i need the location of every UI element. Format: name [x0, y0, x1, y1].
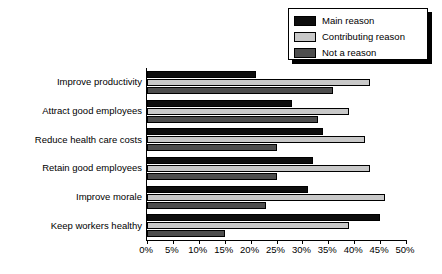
legend-swatch-not-a-reason	[294, 48, 316, 58]
x-tick-label: 45%	[370, 244, 389, 255]
bar	[147, 230, 225, 237]
legend-swatch-contributing-reason	[294, 32, 316, 42]
category-axis-labels: Improve productivityAttract good employe…	[0, 68, 142, 240]
x-tick-label: 50%	[395, 244, 414, 255]
bar	[147, 214, 380, 221]
legend-label: Main reason	[322, 16, 374, 26]
x-tick-label: 25%	[266, 244, 285, 255]
bar-group	[147, 97, 406, 126]
bar-chart: Main reason Contributing reason Not a re…	[0, 0, 442, 274]
x-tick-label: 30%	[292, 244, 311, 255]
bar	[147, 100, 292, 107]
x-tick-label: 40%	[344, 244, 363, 255]
category-label: Improve productivity	[2, 77, 142, 87]
x-tick-label: 15%	[214, 244, 233, 255]
bar	[147, 128, 323, 135]
bar	[147, 157, 313, 164]
legend-item: Contributing reason	[294, 29, 422, 44]
bar	[147, 144, 277, 151]
bar-group	[147, 68, 406, 97]
bar	[147, 202, 266, 209]
x-axis-labels: 0%5%10%15%20%25%30%35%40%45%50%	[146, 244, 405, 260]
bar	[147, 222, 349, 229]
x-tick-label: 35%	[318, 244, 337, 255]
bar	[147, 173, 277, 180]
x-tick-label: 5%	[165, 244, 179, 255]
category-label: Attract good employees	[2, 106, 142, 116]
bar	[147, 79, 370, 86]
category-label: Reduce health care costs	[2, 135, 142, 145]
bar-group	[147, 154, 406, 183]
legend-swatch-main-reason	[294, 16, 316, 26]
x-tick-label: 0%	[139, 244, 153, 255]
legend-label: Contributing reason	[322, 32, 405, 42]
bar-group	[147, 125, 406, 154]
bar	[147, 165, 370, 172]
category-label: Improve morale	[2, 192, 142, 202]
legend-label: Not a reason	[322, 48, 376, 58]
category-label: Retain good employees	[2, 163, 142, 173]
bar-group	[147, 211, 406, 240]
bar	[147, 136, 365, 143]
bar-group	[147, 183, 406, 212]
bar	[147, 108, 349, 115]
plot-area	[146, 68, 406, 241]
legend-item: Not a reason	[294, 45, 422, 60]
bar	[147, 116, 318, 123]
legend-item: Main reason	[294, 13, 422, 28]
bar	[147, 194, 385, 201]
category-label: Keep workers healthy	[2, 221, 142, 231]
chart-legend: Main reason Contributing reason Not a re…	[288, 8, 428, 60]
x-tick-label: 10%	[188, 244, 207, 255]
x-tick-label: 20%	[240, 244, 259, 255]
bar	[147, 186, 308, 193]
bar	[147, 87, 333, 94]
bar	[147, 71, 256, 78]
